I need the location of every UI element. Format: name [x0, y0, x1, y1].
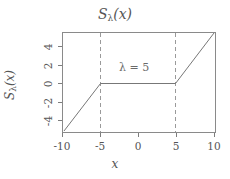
- x-tick-label: 10: [199, 140, 229, 152]
- x-tick-mark: [100, 133, 101, 137]
- x-tick-label: 0: [123, 140, 153, 152]
- y-tick-mark: [58, 120, 62, 121]
- x-axis-title: x: [0, 158, 230, 170]
- x-tick-mark: [176, 133, 177, 137]
- y-axis-title: Sλ(x): [4, 50, 18, 120]
- y-tick-mark: [58, 83, 62, 84]
- y-tick-mark: [58, 102, 62, 103]
- y-tick-label: -2: [42, 95, 54, 111]
- x-tick-mark: [62, 133, 63, 137]
- y-tick-label: 0: [42, 76, 54, 92]
- y-tick-label: 2: [42, 58, 54, 74]
- x-tick-label: -5: [85, 140, 115, 152]
- x-tick-label: -10: [47, 140, 77, 152]
- y-axis-title-symbol: S: [3, 92, 17, 100]
- x-tick-mark: [214, 133, 215, 137]
- lambda-annotation: λ = 5: [119, 62, 149, 73]
- y-tick-label: 4: [42, 39, 54, 55]
- chart-title: Sλ(x): [0, 7, 230, 23]
- y-tick-mark: [58, 65, 62, 66]
- x-tick-label: 5: [161, 140, 191, 152]
- y-tick-mark: [58, 46, 62, 47]
- chart-title-symbol: S: [98, 6, 108, 22]
- chart-title-argument: (x): [113, 6, 132, 22]
- y-tick-label: -4: [42, 113, 54, 129]
- plot-canvas: [62, 32, 216, 133]
- y-axis-title-argument: (x): [3, 70, 17, 86]
- x-tick-mark: [138, 133, 139, 137]
- y-axis-title-subscript: λ: [8, 86, 18, 92]
- chart-figure: Sλ(x) λ = 5 -10 -5 0 5 10 -4 -2 0 2 4 x …: [0, 0, 230, 179]
- soft-threshold-curve: [64, 33, 214, 131]
